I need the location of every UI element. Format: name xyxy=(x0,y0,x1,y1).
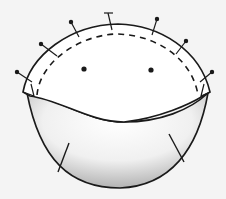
diagram-canvas: Pinned dome with stitching line xyxy=(0,0,226,199)
eye-right-icon xyxy=(148,67,153,72)
pinned-dome-illustration xyxy=(0,0,226,199)
eye-left-icon xyxy=(81,66,86,71)
